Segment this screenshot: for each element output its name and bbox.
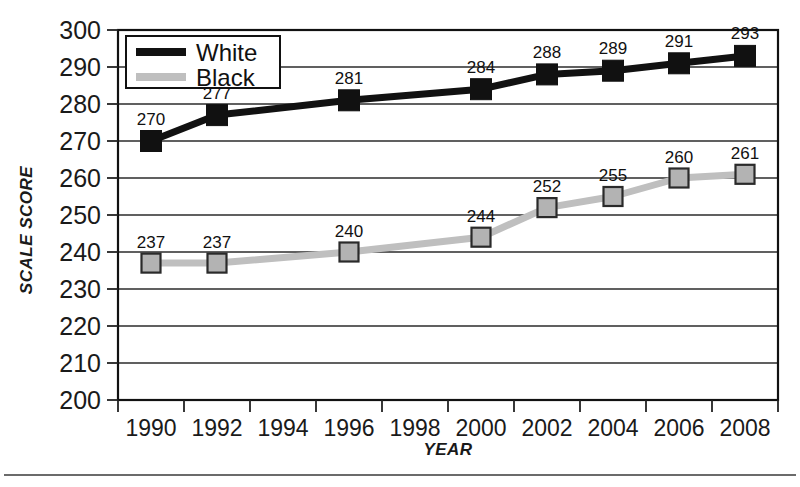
data-point-marker[interactable] [471,79,492,100]
legend-label-white: White [196,39,257,66]
data-point-value: 284 [467,58,495,77]
y-tick-label: 220 [59,312,101,340]
y-tick-label: 280 [59,90,101,118]
y-tick-label: 210 [59,349,101,377]
y-tick-label: 200 [59,386,101,414]
data-point-value: 270 [137,110,165,129]
legend-label-black: Black [196,64,256,91]
data-point-value: 260 [665,148,693,167]
data-point-value: 240 [335,222,363,241]
x-tick-label: 1990 [125,415,176,441]
x-axis-ticks: 1990199219941996199820002002200420062008 [118,400,778,441]
series-line-black [151,174,745,263]
data-point-marker[interactable] [141,131,162,152]
data-point-marker[interactable] [142,254,161,273]
y-tick-label: 230 [59,275,101,303]
data-point-value: 288 [533,43,561,62]
data-point-value: 291 [665,32,693,51]
data-point-marker[interactable] [340,243,359,262]
chart-container: 200210220230240250260270280290300 199019… [0,0,800,487]
data-point-value: 252 [533,177,561,196]
data-point-marker[interactable] [538,198,557,217]
x-tick-label: 2008 [719,415,770,441]
data-point-marker[interactable] [537,64,558,85]
y-tick-label: 260 [59,164,101,192]
y-tick-label: 240 [59,238,101,266]
data-point-marker[interactable] [670,169,689,188]
data-point-marker[interactable] [604,187,623,206]
data-point-value: 289 [599,39,627,58]
data-point-value: 244 [467,207,495,226]
data-point-marker[interactable] [207,105,228,126]
y-tick-label: 250 [59,201,101,229]
data-point-value: 237 [203,233,231,252]
data-point-value: 261 [731,144,759,163]
x-tick-label: 1994 [257,415,308,441]
data-point-value: 255 [599,166,627,185]
x-tick-label: 2002 [521,415,572,441]
data-point-value: 237 [137,233,165,252]
y-axis-ticks: 200210220230240250260270280290300 [59,16,118,414]
y-axis-title: SCALE SCORE [17,166,36,294]
data-point-marker[interactable] [208,254,227,273]
y-tick-label: 300 [59,16,101,44]
x-tick-label: 2000 [455,415,506,441]
data-point-marker[interactable] [736,165,755,184]
data-point-marker[interactable] [339,90,360,111]
x-tick-label: 2006 [653,415,704,441]
x-tick-label: 1992 [191,415,242,441]
x-axis-title: YEAR [423,440,472,459]
x-tick-label: 1998 [389,415,440,441]
data-point-marker[interactable] [472,228,491,247]
data-point-marker[interactable] [603,60,624,81]
data-point-value: 281 [335,69,363,88]
data-point-marker[interactable] [735,45,756,66]
y-tick-label: 270 [59,127,101,155]
x-tick-label: 1996 [323,415,374,441]
chart-legend[interactable]: WhiteBlack [126,36,280,91]
x-tick-label: 2004 [587,415,638,441]
data-point-marker[interactable] [669,53,690,74]
y-tick-label: 290 [59,53,101,81]
data-point-value: 293 [731,24,759,43]
line-chart: 200210220230240250260270280290300 199019… [0,0,800,487]
